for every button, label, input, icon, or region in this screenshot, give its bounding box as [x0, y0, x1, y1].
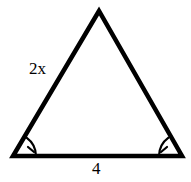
left-side-length-label: 2x [29, 60, 46, 77]
base-length-label: 4 [92, 160, 101, 177]
geometry-figure: 2x 4 [0, 0, 191, 182]
triangle-diagram-svg [0, 0, 191, 182]
